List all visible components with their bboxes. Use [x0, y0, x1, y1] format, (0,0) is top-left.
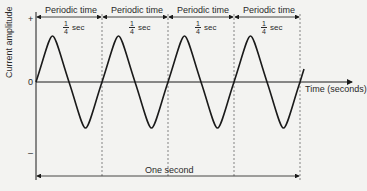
period-label-4: Periodic time — [243, 5, 295, 15]
period-label-3: Periodic time — [177, 5, 229, 15]
unit-3: sec — [204, 23, 216, 32]
y-tick-zero: 0 — [28, 77, 33, 87]
unit-4: sec — [270, 23, 282, 32]
x-axis-label: Time (seconds) — [305, 84, 367, 94]
fraction-4: 14 — [261, 20, 267, 35]
fraction-3: 14 — [195, 20, 201, 35]
unit-1: sec — [72, 23, 84, 32]
fraction-1: 14 — [63, 20, 69, 35]
one-second-label: One second — [145, 165, 194, 175]
period-label-1: Periodic time — [45, 5, 97, 15]
period-label-2: Periodic time — [111, 5, 163, 15]
fraction-2: 14 — [129, 20, 135, 35]
y-tick-minus: – — [28, 148, 33, 158]
unit-2: sec — [138, 23, 150, 32]
y-axis-label: Current amplitude — [4, 6, 14, 78]
y-tick-plus: + — [28, 14, 33, 24]
